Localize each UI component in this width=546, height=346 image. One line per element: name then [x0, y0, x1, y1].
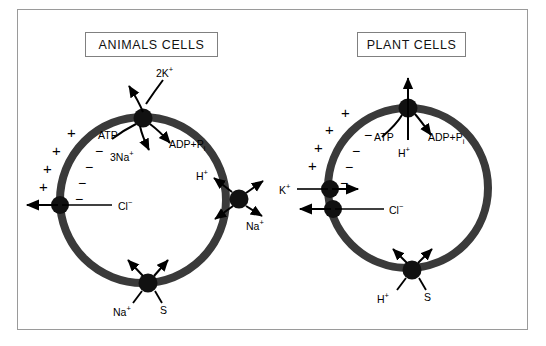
label-animal-cl-sup: − — [128, 198, 132, 207]
plant-charge-inside-4: − — [340, 176, 348, 190]
label-plant-s-bottom: S — [424, 292, 431, 303]
label-plant-h-bottom: H+ — [377, 292, 389, 304]
label-plant-h-bottom-sup: + — [385, 291, 389, 300]
animal-charge-outside-4: + — [39, 179, 48, 194]
animal-charge-inside-4: − — [75, 192, 83, 206]
label-animal-na-right: Na+ — [246, 219, 264, 231]
animal-charge-outside-2: + — [52, 143, 61, 158]
label-animal-adp-text: ADP+P — [169, 138, 204, 150]
label-animal-2k: 2K+ — [156, 66, 173, 78]
label-plant-h-top-sup: + — [406, 145, 410, 154]
animal-charge-outside-3: + — [43, 161, 52, 176]
label-animal-2k-sup: + — [169, 65, 173, 74]
plant-charge-outside-1: + — [341, 105, 350, 120]
animal-charge-inside-2: − — [85, 160, 93, 174]
label-animal-s-bottom: S — [160, 305, 167, 316]
label-animal-h-sup: + — [204, 168, 208, 177]
label-animal-atp: ATP — [98, 130, 118, 141]
label-animal-cl: Cl− — [118, 199, 132, 211]
plant-charge-inside-1: − — [364, 128, 372, 142]
animal-charge-outside-1: + — [67, 125, 76, 140]
label-plant-h-bottom-text: H — [377, 293, 385, 305]
plant-charge-inside-3: − — [345, 160, 353, 174]
label-plant-atp: ATP — [374, 132, 394, 143]
label-animal-3na: 3Na+ — [110, 150, 134, 162]
label-plant-adp: ADP+Pi — [428, 132, 464, 146]
label-plant-k-sup: + — [286, 182, 290, 191]
label-plant-cl: Cl− — [389, 203, 403, 215]
label-plant-cl-text: Cl — [389, 204, 399, 216]
label-animal-3na-sup: + — [129, 149, 133, 158]
label-animal-cl-text: Cl — [118, 200, 128, 212]
label-plant-adp-sub: i — [463, 137, 465, 146]
label-animal-h-text: H — [196, 170, 204, 182]
animal-chloride-transporter — [27, 196, 112, 214]
animal-charge-inside-3: − — [78, 176, 86, 190]
label-animal-2k-text: 2K — [156, 67, 169, 79]
label-animal-na-bottom-sup: + — [126, 304, 130, 313]
label-animal-na-right-text: Na — [246, 220, 259, 232]
label-plant-k: K+ — [279, 183, 290, 195]
label-plant-adp-text: ADP+P — [428, 131, 463, 143]
label-animal-3na-text: 3Na — [110, 151, 129, 163]
label-plant-k-text: K — [279, 184, 286, 196]
animal-charge-inside-1: − — [95, 144, 103, 158]
label-plant-cl-sup: − — [399, 202, 403, 211]
label-animal-na-bottom: Na+ — [113, 305, 131, 317]
diagram-canvas: ANIMALS CELLS PLANT CELLS — [0, 0, 546, 346]
label-plant-h-top: H+ — [398, 146, 410, 158]
label-animal-h: H+ — [196, 169, 208, 181]
label-plant-h-top-text: H — [398, 147, 406, 159]
label-animal-adp: ADP+Pi — [169, 139, 205, 153]
label-animal-na-bottom-text: Na — [113, 306, 126, 318]
label-animal-na-right-sup: + — [259, 218, 263, 227]
diagram-vectors — [0, 0, 546, 346]
plant-charge-outside-3: + — [314, 140, 323, 155]
plant-charge-outside-2: + — [325, 122, 334, 137]
plant-potassium-channel — [297, 180, 358, 198]
label-animal-adp-sub: i — [204, 144, 206, 153]
plant-charge-outside-4: + — [308, 158, 317, 173]
plant-charge-inside-2: − — [352, 144, 360, 158]
plant-chloride-transporter — [300, 200, 384, 218]
